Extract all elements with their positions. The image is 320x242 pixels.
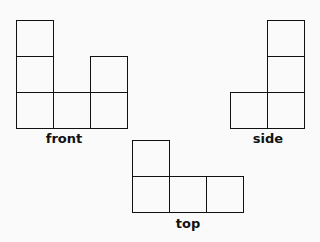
top-cell	[206, 176, 244, 213]
front-cell	[16, 56, 54, 93]
side-label: side	[244, 131, 292, 146]
front-label: front	[40, 131, 88, 146]
front-cell	[53, 92, 91, 129]
front-cell	[16, 92, 54, 129]
top-cell	[132, 140, 170, 177]
side-cell	[267, 92, 305, 129]
front-cell	[90, 92, 128, 129]
front-cell	[16, 20, 54, 57]
front-cell	[90, 56, 128, 93]
top-cell	[132, 176, 170, 213]
side-cell	[267, 20, 305, 57]
side-cell	[230, 92, 268, 129]
side-cell	[267, 56, 305, 93]
top-label: top	[164, 216, 212, 231]
top-cell	[169, 176, 207, 213]
